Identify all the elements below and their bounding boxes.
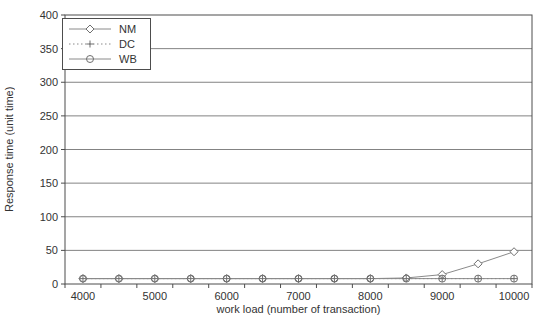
y-tick-label: 400 bbox=[40, 9, 58, 21]
legend-sample-wb-icon bbox=[68, 52, 112, 66]
y-tick-label: 250 bbox=[40, 110, 58, 122]
chart-figure: 0501001502002503003504004000500060007000… bbox=[0, 0, 551, 328]
legend-item-dc: DC bbox=[68, 37, 145, 51]
y-tick-label: 50 bbox=[46, 244, 58, 256]
y-tick-label: 300 bbox=[40, 76, 58, 88]
x-tick-label: 8000 bbox=[358, 290, 382, 302]
legend-sample-nm-icon bbox=[68, 22, 112, 36]
x-tick-label: 7000 bbox=[286, 290, 310, 302]
legend-label-dc: DC bbox=[119, 38, 145, 50]
x-tick-label: 9000 bbox=[430, 290, 454, 302]
legend-label-nm: NM bbox=[119, 23, 145, 35]
legend-sample-dc-icon bbox=[68, 37, 112, 51]
y-axis-title: Response time (unit time) bbox=[1, 15, 16, 284]
y-tick-label: 350 bbox=[40, 43, 58, 55]
y-tick-label: 200 bbox=[40, 144, 58, 156]
y-tick-label: 150 bbox=[40, 177, 58, 189]
x-tick-label: 6000 bbox=[214, 290, 238, 302]
legend-marker-nm bbox=[86, 25, 94, 33]
legend-item-nm: NM bbox=[68, 22, 145, 36]
y-tick-label: 100 bbox=[40, 211, 58, 223]
legend-item-wb: WB bbox=[68, 52, 145, 66]
x-tick-label: 5000 bbox=[143, 290, 167, 302]
x-axis-title: work load (number of transaction) bbox=[65, 303, 532, 315]
legend: NMDCWB bbox=[62, 18, 151, 70]
x-tick-label: 4000 bbox=[71, 290, 95, 302]
legend-label-wb: WB bbox=[119, 53, 145, 65]
y-tick-label: 0 bbox=[52, 278, 58, 290]
x-tick-label: 10000 bbox=[499, 290, 530, 302]
